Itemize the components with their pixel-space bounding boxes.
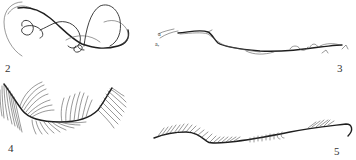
- panel-4-drawing: [0, 80, 130, 135]
- annotation-a: a: [158, 31, 161, 37]
- annotation-a-prime: a,: [155, 41, 159, 47]
- panel-4-label: 4: [8, 143, 14, 154]
- panel-5-drawing: [150, 112, 356, 142]
- panel-3-label: 3: [337, 63, 343, 74]
- panel-2-drawing: [0, 0, 140, 60]
- panel-3-drawing: [150, 25, 356, 55]
- panel-5-label: 5: [334, 146, 340, 157]
- figure: 2 a a, 3: [0, 0, 356, 160]
- panel-2-label: 2: [5, 63, 11, 74]
